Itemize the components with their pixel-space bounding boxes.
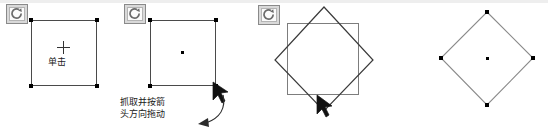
handle-left[interactable] — [439, 56, 443, 60]
panel-drag-step: 抓取并按箭 头方向拖动 — [118, 0, 258, 131]
center-dot — [486, 57, 489, 60]
caption-drag-line2: 头方向拖动 — [120, 108, 182, 120]
panel-result-step — [400, 0, 548, 131]
caption-click: 单击 — [48, 57, 66, 68]
rotate-icon[interactable] — [6, 4, 28, 24]
rotated-object[interactable] — [400, 0, 548, 131]
panel-rotating-step — [255, 0, 400, 131]
handle-bottom[interactable] — [485, 103, 489, 107]
illustration-canvas: 单击 抓取并按箭 头方向拖动 — [0, 0, 548, 131]
crosshair-icon — [57, 41, 70, 54]
arrow-cursor — [255, 0, 400, 131]
handle-bottom-left[interactable] — [29, 84, 33, 88]
handle-top-right[interactable] — [95, 18, 99, 22]
handle-bottom-right[interactable] — [95, 84, 99, 88]
caption-drag-line1: 抓取并按箭 — [120, 96, 182, 108]
handle-right[interactable] — [531, 56, 535, 60]
caption-drag: 抓取并按箭 头方向拖动 — [120, 96, 182, 120]
rotate-arrow-glyph — [10, 7, 24, 21]
handle-top-left[interactable] — [29, 18, 33, 22]
handle-top[interactable] — [485, 10, 489, 14]
